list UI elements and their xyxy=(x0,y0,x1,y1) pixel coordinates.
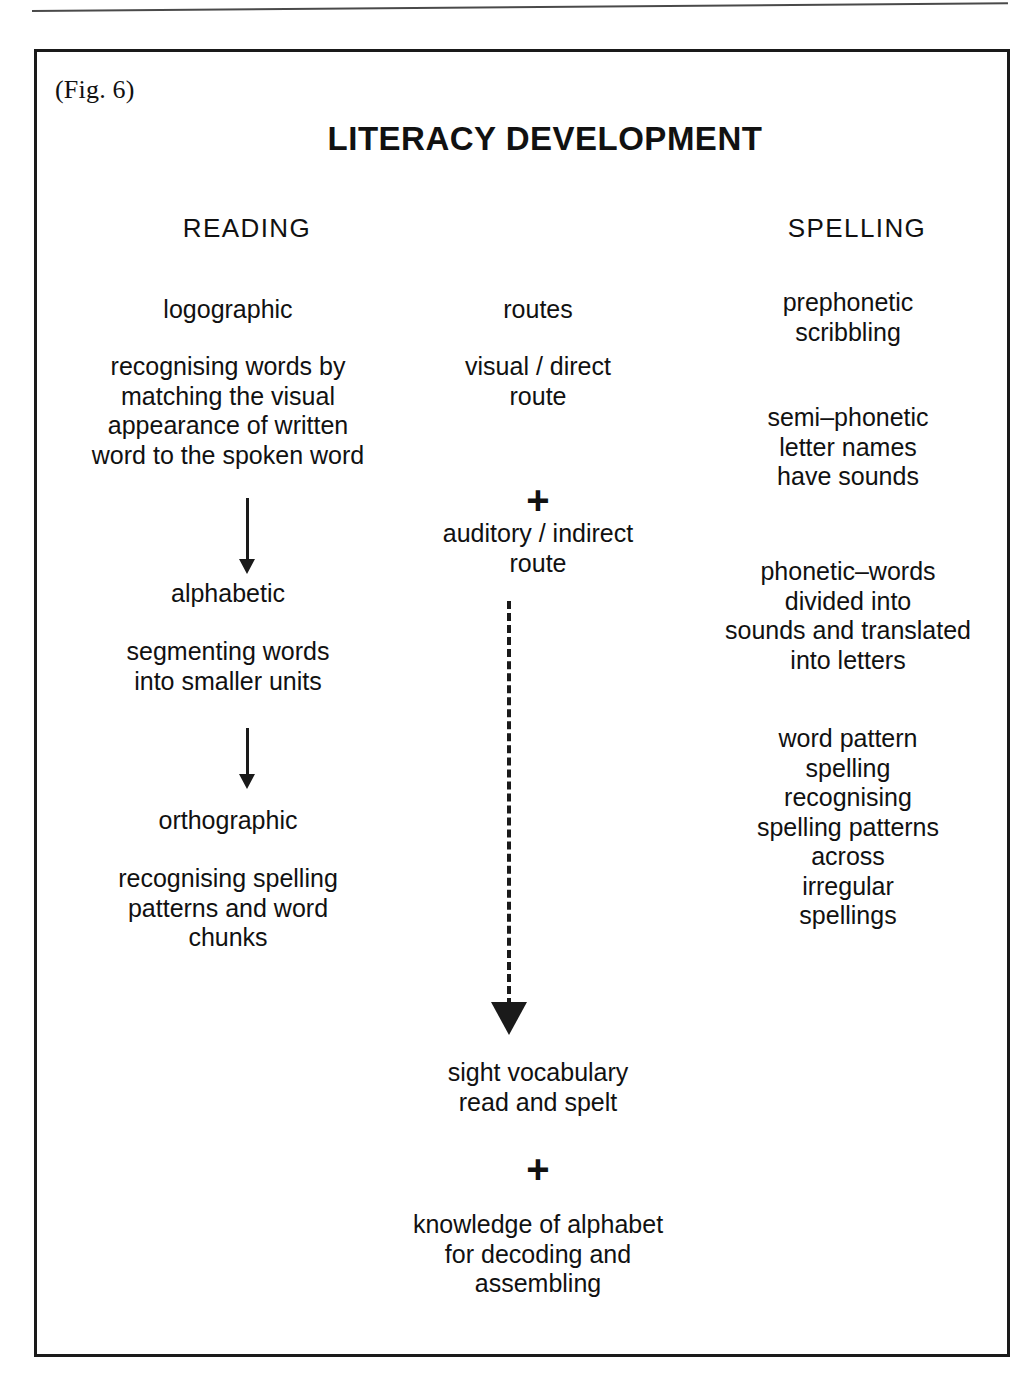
routes-outcome-sight-vocabulary: sight vocabulary read and spelt xyxy=(393,1058,683,1117)
page-header-rule xyxy=(32,2,1008,12)
column-header-spelling: SPELLING xyxy=(757,213,957,244)
routes-requirement-alphabet-knowledge: knowledge of alphabet for decoding and a… xyxy=(393,1210,683,1299)
routes-heading: routes xyxy=(393,295,683,325)
reading-stage-logographic-description: recognising words by matching the visual… xyxy=(73,352,383,470)
spelling-stage-semi-phonetic: semi–phonetic letter names have sounds xyxy=(693,403,1003,492)
arrow-down-icon xyxy=(246,728,249,776)
spelling-stage-word-pattern: word pattern spelling recognising spelli… xyxy=(693,724,1003,931)
reading-stage-orthographic-description: recognising spelling patterns and word c… xyxy=(73,864,383,953)
reading-stage-logographic: logographic xyxy=(73,295,383,325)
column-header-reading: READING xyxy=(147,213,347,244)
dashed-arrow-down-icon xyxy=(507,601,511,1006)
spelling-stage-prephonetic: prephonetic scribbling xyxy=(693,288,1003,347)
arrow-down-icon xyxy=(246,498,249,561)
figure-label: (Fig. 6) xyxy=(55,75,135,105)
routes-visual-direct: visual / direct route xyxy=(393,352,683,411)
reading-stage-alphabetic-description: segmenting words into smaller units xyxy=(73,637,383,696)
dashed-arrow-head-icon xyxy=(491,1002,527,1035)
plus-icon: + xyxy=(393,1149,683,1189)
figure-frame: (Fig. 6) LITERACY DEVELOPMENT READING SP… xyxy=(34,49,1010,1357)
plus-icon: + xyxy=(393,480,683,520)
routes-auditory-indirect: auditory / indirect route xyxy=(393,519,683,578)
figure-title: LITERACY DEVELOPMENT xyxy=(37,120,1013,158)
reading-stage-alphabetic: alphabetic xyxy=(73,579,383,609)
reading-stage-orthographic: orthographic xyxy=(73,806,383,836)
page-header-text-fragment xyxy=(33,0,53,4)
spelling-stage-phonetic: phonetic–words divided into sounds and t… xyxy=(693,557,1003,675)
